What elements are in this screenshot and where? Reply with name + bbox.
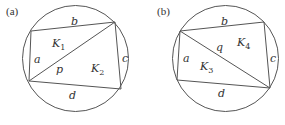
- diagonal-p-label: p: [56, 63, 63, 76]
- figure-b-tag: (b): [157, 5, 170, 18]
- side-d-label-a: d: [69, 89, 76, 102]
- figure-a-tag: (a): [6, 5, 19, 18]
- region-k1-label: K1: [51, 37, 65, 52]
- quadrilateral-a: [29, 22, 121, 89]
- region-k3-label: K3: [199, 60, 213, 75]
- side-c-label-b: c: [270, 52, 276, 65]
- quadrilateral-b: [177, 22, 270, 88]
- figure-a: (a) b a c d p K1 K2: [6, 5, 129, 112]
- side-d-label-b: d: [218, 87, 225, 100]
- region-k2-label: K2: [90, 62, 104, 77]
- diagonal-q: [180, 31, 270, 88]
- side-a-label-a: a: [34, 53, 41, 66]
- region-k4-label: K4: [236, 36, 250, 51]
- diagonal-q-label: q: [216, 41, 223, 54]
- figure-b: (b) b a c d q K3 K4: [157, 5, 279, 112]
- side-c-label-a: c: [122, 52, 128, 65]
- cyclic-quadrilateral-diagrams: (a) b a c d p K1 K2 (b) b a c d q K3 K4: [0, 0, 285, 125]
- side-b-label-a: b: [71, 15, 78, 28]
- side-b-label-b: b: [221, 15, 228, 28]
- side-a-label-b: a: [183, 52, 190, 65]
